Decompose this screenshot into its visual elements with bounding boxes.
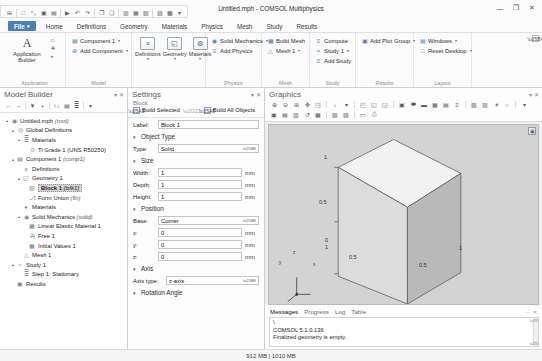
- model-builder-tool-2[interactable]: ▼: [28, 101, 37, 110]
- tree-node-materials[interactable]: ●Materials: [2, 202, 127, 212]
- tree-node-solid-mechanics[interactable]: ▴◉Solid Mechanics (solid): [2, 212, 127, 222]
- build-all-objects-button[interactable]: \u25A6Build All Objects: [204, 107, 256, 114]
- view-yz-icon[interactable]: ◱: [369, 100, 379, 109]
- tree-node-mesh-1[interactable]: △Mesh 1: [2, 250, 127, 260]
- graphics-canvas[interactable]: 1 0.5 0 1 0.5 0.5 1 z y x ▣: [268, 124, 539, 305]
- object-type-twisty-icon[interactable]: ▾: [133, 134, 138, 140]
- ribbon-item-caret-icon[interactable]: ▾: [470, 48, 472, 53]
- view-zx-icon[interactable]: ◲: [380, 100, 390, 109]
- messages-scrollbar[interactable]: \u25B4 \u25BE: [533, 318, 538, 346]
- scene-light-icon[interactable]: ☼: [502, 100, 512, 109]
- tree-node-form-union[interactable]: ⎇Form Union (fin): [2, 193, 127, 203]
- mesh-icon[interactable]: ▦: [131, 8, 140, 17]
- open-icon[interactable]: ⤡: [29, 8, 38, 17]
- close-button[interactable]: ✕: [524, 1, 540, 15]
- size-section-header[interactable]: ▾ Size: [128, 154, 264, 166]
- selection-list-icon[interactable]: ≡: [452, 100, 462, 109]
- ribbon-item-caret-icon[interactable]: ▾: [118, 38, 120, 43]
- tree-node-untitled-mph[interactable]: ▴◉Untitled.mph (root): [2, 116, 127, 126]
- ribbon-tab-file[interactable]: File▾: [8, 21, 36, 31]
- model-builder-tool-1[interactable]: →: [14, 101, 23, 110]
- model-builder-toolbar[interactable]: ←→▼•↑↓▤≣▾: [0, 100, 127, 113]
- model-builder-tool-0[interactable]: ←: [4, 101, 13, 110]
- ribbon-tab-study[interactable]: Study: [259, 20, 289, 32]
- ribbon-item-windows[interactable]: ▤Windows▾: [417, 36, 474, 45]
- ribbon-button-caret-icon[interactable]: ▾: [199, 57, 201, 61]
- model-builder-tool-5[interactable]: ▤: [62, 101, 71, 110]
- zoom-out-icon[interactable]: ⊖: [280, 100, 290, 109]
- view-dropdown-caret[interactable]: ▾: [341, 100, 351, 109]
- tree-node-definitions[interactable]: ≡Definitions: [2, 164, 127, 174]
- model-builder-tool-6[interactable]: ≣: [72, 101, 81, 110]
- tree-node-block-1[interactable]: ▧Block 1 (blk1): [2, 183, 127, 193]
- go-to-default-view-icon[interactable]: ↓: [330, 100, 340, 109]
- application-side-icon-1[interactable]: ✚: [49, 44, 56, 51]
- tree-node-free-1[interactable]: ✇Free 1: [2, 231, 127, 241]
- ribbon-item-add-physics[interactable]: ≡Add Physics: [209, 46, 270, 55]
- size-height-input[interactable]: 1: [158, 192, 242, 201]
- axis-twisty-icon[interactable]: ▾: [133, 266, 138, 272]
- zoom-box-icon[interactable]: ⊞: [291, 100, 301, 109]
- axis-section-header[interactable]: ▾ Axis: [128, 262, 264, 274]
- maximize-button[interactable]: ❐: [508, 1, 524, 15]
- tree-node-initial-values-1[interactable]: ▦Initial Values 1: [2, 241, 127, 251]
- select-rect-icon[interactable]: ▬: [419, 100, 429, 109]
- more-tools-caret[interactable]: ▾: [519, 100, 529, 109]
- model-builder-tool-3[interactable]: •: [38, 101, 47, 110]
- position-z-input[interactable]: 0: [158, 252, 242, 261]
- print-view-icon[interactable]: ▥: [291, 110, 301, 119]
- ribbon-item-caret-icon[interactable]: ▾: [298, 48, 300, 53]
- tree-node-component-1[interactable]: ▴▤Component 1 (comp1): [2, 154, 127, 164]
- messages-tab-log[interactable]: Log: [335, 308, 345, 315]
- view-xy-icon[interactable]: ◰: [358, 100, 368, 109]
- ribbon-item-add-plot-group[interactable]: ▣Add Plot Group▾: [359, 36, 417, 45]
- ribbon-collapse-icon[interactable]: \u25B4: [532, 35, 539, 42]
- settings-close-icon[interactable]: ✕: [256, 92, 261, 98]
- zoom-in-icon[interactable]: ⊕: [269, 100, 279, 109]
- application-side-icon-0[interactable]: □: [49, 36, 56, 43]
- redo-icon[interactable]: ↷: [83, 8, 92, 17]
- ribbon-item-caret-icon[interactable]: ▾: [126, 48, 128, 53]
- headlight-icon[interactable]: ☀: [491, 100, 501, 109]
- select-box-icon[interactable]: ▣: [397, 100, 407, 109]
- ribbon-tab-home[interactable]: Home: [39, 20, 70, 32]
- tree-node-step-1-stationary[interactable]: ≣Step 1: Stationary: [2, 270, 127, 280]
- ribbon-item-build-mesh[interactable]: ▦Build Mesh: [265, 36, 307, 45]
- tree-node-global-definitions[interactable]: ▴◎Global Definitions: [2, 126, 127, 136]
- app-menu-icon[interactable]: ⊞: [5, 8, 14, 17]
- ribbon-tab-physics[interactable]: Physics: [194, 20, 230, 32]
- model-tree[interactable]: ▴◉Untitled.mph (root)▴◎Global Definition…: [0, 113, 127, 349]
- scene-camera-icon[interactable]: ▭: [358, 110, 368, 119]
- type-select[interactable]: Solid \u25BE: [158, 144, 259, 153]
- clear-selection-icon[interactable]: ▤: [441, 100, 451, 109]
- orthographic-icon[interactable]: ▦: [313, 110, 323, 119]
- ribbon-item-caret-icon[interactable]: ▾: [347, 48, 349, 53]
- rotation-angle-section-header[interactable]: ▾ Rotation Angle: [128, 286, 264, 298]
- undo-icon[interactable]: ↶: [73, 8, 82, 17]
- position-x-input[interactable]: 0: [158, 228, 242, 237]
- size-width-input[interactable]: 1: [158, 168, 242, 177]
- ribbon-tab-materials[interactable]: Materials: [155, 20, 195, 32]
- reset-view-icon[interactable]: ↺: [302, 110, 312, 119]
- graphics-close-icon[interactable]: ✕: [534, 92, 539, 98]
- tree-node-results[interactable]: ▣Results: [2, 279, 127, 289]
- position-y-input[interactable]: 0: [158, 240, 242, 249]
- ribbon-tab-geometry[interactable]: Geometry: [113, 20, 155, 32]
- select-all-icon[interactable]: ▦: [430, 100, 440, 109]
- paste-icon[interactable]: ❑: [107, 8, 116, 17]
- ribbon-item-add-component[interactable]: ⊕Add Component▾: [69, 46, 130, 55]
- perspective-icon[interactable]: ▧: [330, 110, 340, 119]
- messages-scroll-up-icon[interactable]: \u25B4: [534, 318, 538, 323]
- axis-type-select[interactable]: z-axis \u25BE: [166, 276, 259, 285]
- model-builder-tool-4[interactable]: ↑↓: [52, 101, 61, 110]
- label-input[interactable]: Block 1: [158, 120, 259, 129]
- graphics-collapse-icon[interactable]: ▾: [529, 92, 532, 98]
- application-side-icon-2[interactable]: ▸: [49, 52, 56, 59]
- new-icon[interactable]: □: [19, 8, 28, 17]
- size-depth-input[interactable]: 1: [158, 180, 242, 189]
- transparency-icon[interactable]: ▧: [469, 100, 479, 109]
- ribbon-button-geometry[interactable]: ◱Geometry▾: [163, 35, 187, 61]
- build-icon[interactable]: ▥: [121, 8, 130, 17]
- copy-icon[interactable]: ❐: [97, 8, 106, 17]
- graphics-overlay-badge[interactable]: ▣: [528, 127, 536, 135]
